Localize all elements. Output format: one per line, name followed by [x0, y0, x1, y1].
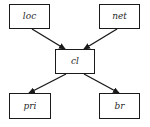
- node-br: br: [99, 93, 140, 119]
- node-pri-label: pri: [24, 102, 37, 111]
- node-loc-label: loc: [23, 12, 36, 21]
- edge-cl-to-br: [84, 74, 119, 93]
- node-cl-label: cl: [71, 57, 79, 66]
- node-loc: loc: [9, 4, 50, 29]
- node-br-label: br: [114, 102, 124, 111]
- node-cl: cl: [55, 49, 95, 74]
- node-net-label: net: [112, 12, 127, 21]
- dependency-diagram: loc net cl pri br: [0, 0, 150, 127]
- edge-loc-to-cl: [32, 29, 65, 49]
- node-pri: pri: [9, 93, 51, 119]
- edge-cl-to-pri: [29, 74, 66, 93]
- node-net: net: [99, 4, 140, 29]
- edge-net-to-cl: [84, 29, 117, 49]
